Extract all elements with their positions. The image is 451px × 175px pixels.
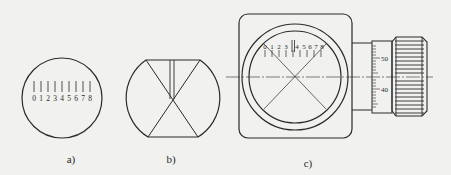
- caption-c: c): [304, 157, 313, 170]
- scale-label: 6: [308, 43, 312, 51]
- panel-a: 0 1 2 3 4 5 6 7 8 a): [22, 58, 102, 166]
- scale-label: 4: [295, 43, 299, 51]
- scale-label: 2: [277, 43, 281, 51]
- scale-label: 5: [302, 43, 306, 51]
- crosshair-line: [146, 60, 198, 137]
- scale-label: 8: [320, 43, 324, 51]
- scale-label: 8: [88, 94, 92, 103]
- knurling-lines: [395, 37, 424, 116]
- caption-a: a): [67, 153, 76, 166]
- scale-label: 5: [67, 94, 71, 103]
- reticle-scale-labels: 0 1 2 3 4 5 6 7 8: [263, 43, 324, 51]
- scale-label: 4: [60, 94, 64, 103]
- panel-c: 0 1 2 3 4 5 6 7 8: [226, 14, 433, 170]
- truncated-circle-outline: [126, 60, 220, 137]
- scale-label: 3: [53, 94, 57, 103]
- scale-label: 1: [39, 94, 43, 103]
- scale-labels: 0 1 2 3 4 5 6 7 8: [32, 94, 92, 103]
- drum-ticks: [372, 46, 380, 107]
- scale-label: 6: [74, 94, 78, 103]
- micrometer-barrel: [352, 43, 372, 110]
- scale-label: 1: [270, 43, 274, 51]
- scale-ticks: [34, 81, 90, 92]
- panel-b: b): [126, 60, 220, 166]
- scale-label: 3: [284, 43, 288, 51]
- drum-label-50: 50: [381, 55, 389, 63]
- scale-label: 7: [314, 43, 318, 51]
- scale-label: 7: [81, 94, 85, 103]
- scale-label: 0: [32, 94, 36, 103]
- scale-label: 2: [46, 94, 50, 103]
- drum-label-40: 40: [381, 86, 389, 94]
- figure-canvas: 0 1 2 3 4 5 6 7 8 a) b): [0, 0, 451, 175]
- caption-b: b): [166, 153, 176, 166]
- scale-label: 0: [263, 43, 267, 51]
